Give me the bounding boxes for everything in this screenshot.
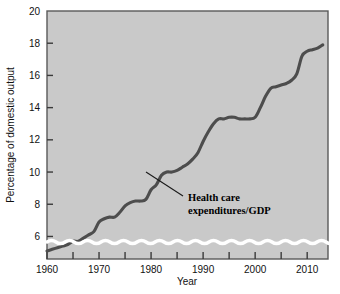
y-axis-tick-label: 6 [34,231,40,242]
y-axis-tick-label: 20 [29,6,41,17]
y-axis-title: Percentage of domestic output [5,67,16,203]
series-annotation-line-1: Health care [188,192,240,203]
x-axis-tick-label: 1970 [88,264,111,275]
chart-canvas: 68101214161820 196019701980199020002010 … [0,0,340,294]
y-axis-tick-label: 14 [29,102,41,113]
y-axis-tick-label: 18 [29,38,41,49]
x-axis-tick-label: 1990 [192,264,215,275]
series-annotation-line-2: expenditures/GDP [188,205,271,216]
y-axis-tick-label: 12 [29,134,41,145]
x-axis-tick-label: 2000 [244,264,267,275]
health-expenditure-chart-figure: 68101214161820 196019701980199020002010 … [0,0,340,294]
x-axis-title: Year [177,276,198,287]
y-axis-tick-label: 16 [29,70,41,81]
x-axis-tick-label: 2010 [296,264,319,275]
y-axis-tick-label: 10 [29,167,41,178]
plot-area-background [47,11,328,259]
x-axis-tick-label: 1980 [140,264,163,275]
y-axis-tick-label: 8 [34,199,40,210]
x-axis-tick-label: 1960 [36,264,59,275]
